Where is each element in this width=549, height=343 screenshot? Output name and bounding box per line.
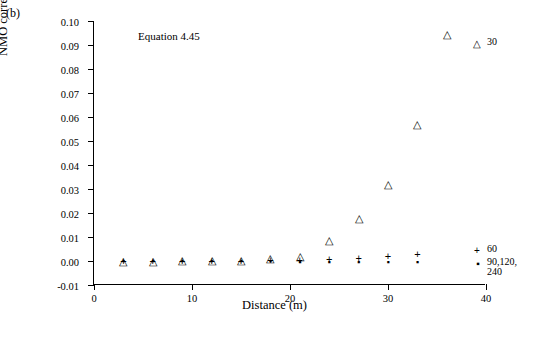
x-tick [192, 284, 193, 290]
y-tick-label: 0.07 [61, 89, 79, 100]
data-point: ▪ [151, 257, 154, 266]
y-tick-label: 0.06 [61, 113, 79, 124]
x-axis-title: Distance (m) [0, 298, 549, 313]
y-tick-label: 0.09 [61, 41, 79, 52]
data-point: △ [384, 178, 392, 189]
x-tick-label: 20 [285, 293, 296, 304]
y-tick: 0.04 [88, 165, 94, 166]
figure-root: (b) NMO correction error (ms) Distance (… [0, 0, 549, 343]
data-point: ▪ [386, 258, 389, 267]
data-point: ▪ [298, 257, 301, 266]
y-tick: 0.00 [88, 261, 94, 262]
data-point: △ [413, 119, 421, 130]
y-tick: 0.07 [88, 93, 94, 94]
x-tick [486, 284, 487, 290]
x-tick [388, 284, 389, 290]
data-point: △ [325, 234, 333, 245]
legend-label: 60 [487, 243, 497, 254]
y-tick-label: -0.01 [57, 281, 79, 292]
data-point: ▪ [269, 257, 272, 266]
data-point: ▪ [416, 258, 419, 267]
y-tick-label: 0.01 [61, 233, 79, 244]
data-point: ▪ [328, 258, 331, 267]
x-tick-label: 30 [383, 293, 394, 304]
legend-label: 240 [487, 266, 502, 277]
data-point: ▪ [181, 257, 184, 266]
y-tick-label: 0.00 [61, 257, 79, 268]
x-tick-label: 0 [91, 293, 96, 304]
y-axis-title: NMO correction error (ms) [0, 0, 11, 56]
y-tick-label: 0.03 [61, 185, 79, 196]
y-tick-label: 0.10 [61, 17, 79, 28]
data-point: △ [443, 29, 451, 40]
y-tick-label: 0.02 [61, 209, 79, 220]
data-point: ▪ [122, 257, 125, 266]
plot-area: -0.010.000.010.020.030.040.050.060.070.0… [93, 21, 485, 285]
x-tick [94, 284, 95, 290]
x-tick [290, 284, 291, 290]
y-tick: 0.02 [88, 213, 94, 214]
y-tick: 0.09 [88, 45, 94, 46]
x-tick-label: 10 [187, 293, 198, 304]
x-tick-label: 40 [481, 293, 492, 304]
equation-annotation: Equation 4.45 [138, 30, 200, 42]
y-tick: 0.08 [88, 69, 94, 70]
y-tick: 0.01 [88, 237, 94, 238]
data-point: △ [355, 213, 363, 224]
legend-label: 30 [487, 36, 497, 47]
legend-symbol: △ [473, 38, 481, 49]
y-tick: 0.06 [88, 117, 94, 118]
legend-symbol: ▪ [476, 258, 480, 269]
data-point: ▪ [357, 258, 360, 267]
y-tick: 0.10 [88, 21, 94, 22]
y-tick-label: 0.08 [61, 65, 79, 76]
y-tick-label: 0.05 [61, 137, 79, 148]
y-tick: 0.03 [88, 189, 94, 190]
data-point: ▪ [210, 257, 213, 266]
y-tick: 0.05 [88, 141, 94, 142]
y-tick-label: 0.04 [61, 161, 79, 172]
data-point: ▪ [239, 257, 242, 266]
legend-symbol: + [474, 245, 480, 256]
